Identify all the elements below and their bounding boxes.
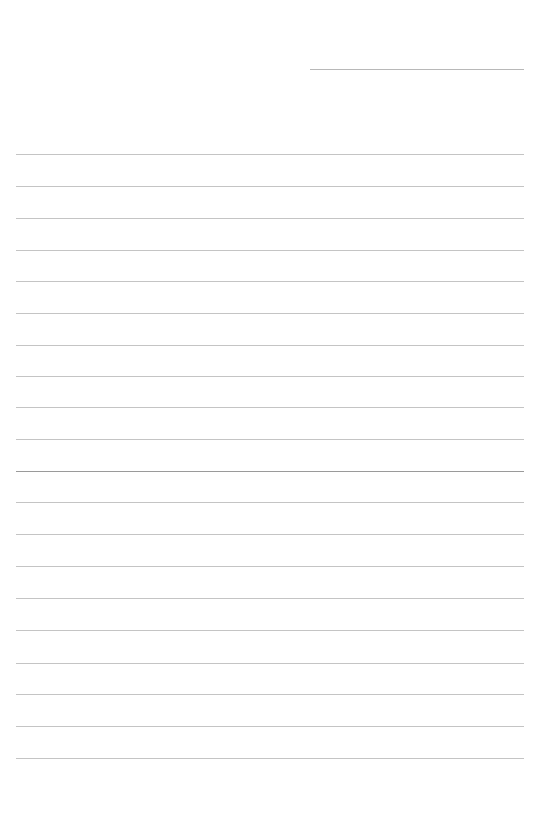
ruled-line <box>16 502 524 503</box>
ruled-line <box>16 534 524 535</box>
ruled-line <box>16 281 524 282</box>
ruled-line <box>16 313 524 314</box>
ruled-line <box>16 630 524 631</box>
ruled-line <box>16 439 524 440</box>
ruled-line <box>16 758 524 759</box>
ruled-line <box>16 376 524 377</box>
ruled-line <box>16 694 524 695</box>
header-name-line <box>310 69 524 70</box>
ruled-line <box>16 566 524 567</box>
ruled-line <box>16 250 524 251</box>
ruled-line <box>16 726 524 727</box>
ruled-line <box>16 663 524 664</box>
ruled-line <box>16 345 524 346</box>
lined-paper-sheet <box>0 0 540 813</box>
ruled-line <box>16 154 524 155</box>
ruled-line <box>16 218 524 219</box>
ruled-line <box>16 407 524 408</box>
ruled-line <box>16 471 524 472</box>
ruled-line <box>16 186 524 187</box>
ruled-line <box>16 598 524 599</box>
